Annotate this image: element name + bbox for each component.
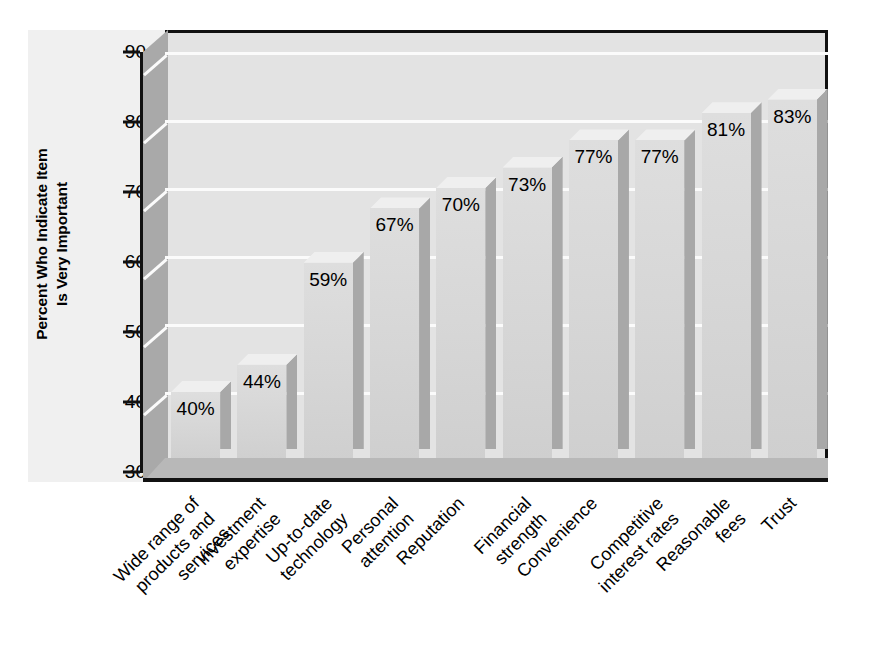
- bar-side-face: [684, 129, 695, 449]
- y-tick-mark-70: [123, 191, 140, 194]
- x-axis-tick-labels: Wide range ofproducts andservicesInvestm…: [0, 487, 895, 645]
- plot-area: 40%44%59%67%70%73%77%77%81%83%: [143, 30, 828, 482]
- x-tick-label-line: Trust: [757, 493, 801, 537]
- bar[interactable]: 77%: [569, 140, 618, 460]
- bar-value-label: 59%: [304, 269, 353, 291]
- bar-side-face: [419, 197, 430, 449]
- y-tick-mark-50: [123, 331, 140, 334]
- bar-value-label: 81%: [702, 119, 751, 141]
- bar[interactable]: 83%: [768, 100, 817, 460]
- y-tick-mark-80: [123, 121, 140, 124]
- bar-side-face: [817, 89, 828, 449]
- bar-side-face: [220, 381, 231, 449]
- bar-value-label: 73%: [503, 174, 552, 196]
- bar-side-face: [485, 177, 496, 449]
- y-tick-mark-90: [123, 51, 140, 54]
- y-axis-title-line-2: Is Very Important: [52, 182, 72, 306]
- x-tick-label: Investmentexpertise: [193, 493, 286, 586]
- bar[interactable]: 44%: [237, 365, 286, 460]
- bar-front-face: [370, 208, 419, 460]
- x-tick-label: Trust: [757, 493, 801, 537]
- chart-figure: Percent Who Indicate Item Is Very Import…: [0, 0, 895, 645]
- y-tick-mark-60: [123, 261, 140, 264]
- bar-value-label: 77%: [569, 146, 618, 168]
- y-axis-title-line-1: Percent Who Indicate Item: [32, 148, 52, 339]
- bar-value-label: 83%: [768, 106, 817, 128]
- bar-front-face: [436, 188, 485, 460]
- bar[interactable]: 77%: [635, 140, 684, 460]
- bar-value-label: 67%: [370, 214, 419, 236]
- x-tick-label: Up-to-datetechnology: [260, 493, 352, 585]
- bar[interactable]: 67%: [370, 208, 419, 460]
- bar-value-label: 70%: [436, 194, 485, 216]
- bar-side-face: [751, 102, 762, 449]
- bar-side-face: [618, 129, 629, 449]
- bar-value-label: 40%: [171, 398, 220, 420]
- x-axis-line: [143, 478, 828, 482]
- bar[interactable]: 81%: [702, 113, 751, 460]
- bar[interactable]: 70%: [436, 188, 485, 460]
- bar-front-face: [635, 140, 684, 460]
- y-tick-mark-40: [123, 401, 140, 404]
- bar-side-face: [353, 252, 364, 449]
- bar-front-face: [503, 168, 552, 460]
- bar-side-face: [286, 354, 297, 449]
- bar-front-face: [304, 263, 353, 460]
- y-tick-mark-30: [123, 471, 140, 474]
- bar-front-face: [702, 113, 751, 460]
- bar-value-label: 44%: [237, 371, 286, 393]
- bar-front-face: [768, 100, 817, 460]
- bar[interactable]: 59%: [304, 263, 353, 460]
- bar[interactable]: 40%: [171, 392, 220, 460]
- bar[interactable]: 73%: [503, 168, 552, 460]
- bar-front-face: [569, 140, 618, 460]
- grid-line-90: [165, 52, 828, 55]
- bar-side-face: [552, 157, 563, 449]
- bar-value-label: 77%: [635, 146, 684, 168]
- y-axis-title: Percent Who Indicate Item Is Very Import…: [30, 74, 74, 414]
